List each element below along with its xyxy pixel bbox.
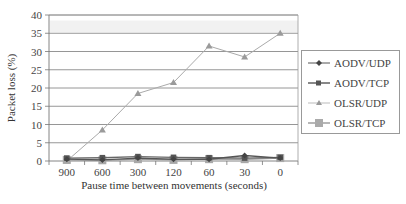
legend-item-aodv-udp: AODV/UDP (302, 55, 399, 71)
data-series (63, 30, 284, 165)
triangle-marker (206, 43, 213, 49)
x-tick-label: 0 (277, 166, 283, 178)
background-band (50, 20, 298, 32)
square-marker-icon (306, 75, 332, 91)
y-axis-label: Packet loss (%) (5, 53, 18, 122)
diamond-marker-icon (306, 55, 332, 71)
y-tick-label: 5 (37, 137, 43, 149)
y-tick-label: 0 (37, 155, 43, 167)
y-tick-label: 25 (31, 64, 43, 76)
legend-item-aodv-tcp: AODV/TCP (302, 75, 399, 91)
gridlines (49, 15, 298, 143)
x-tick-label: 300 (130, 166, 147, 178)
chart-legend: AODV/UDP AODV/TCP OLSR/UDP OLSR/TCP (301, 50, 400, 134)
y-tick-label: 10 (31, 119, 43, 131)
series-olsr-udp (63, 30, 283, 164)
triangle-marker-icon (306, 95, 332, 111)
y-tick-label: 20 (31, 82, 43, 94)
legend-item-olsr-udp: OLSR/UDP (302, 95, 399, 111)
y-tick-label: 40 (31, 9, 43, 21)
square-marker-icon (306, 115, 332, 131)
x-tick-label: 60 (204, 166, 216, 178)
y-tick-label: 30 (31, 46, 43, 58)
legend-item-olsr-tcp: OLSR/TCP (302, 115, 399, 131)
y-tick-label: 35 (31, 27, 43, 39)
x-axis-label: Pause time between movements (seconds) (81, 179, 267, 192)
x-tick-label: 600 (94, 166, 111, 178)
y-axis-ticks: 0510152025303540 (31, 9, 49, 167)
x-tick-label: 900 (59, 166, 76, 178)
x-tick-label: 120 (165, 166, 182, 178)
y-tick-label: 15 (31, 100, 43, 112)
x-tick-label: 30 (239, 166, 251, 178)
